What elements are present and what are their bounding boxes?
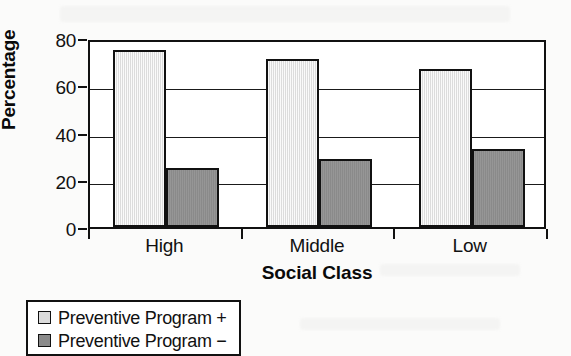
x-tick-mark — [546, 229, 548, 239]
y-tick-mark — [78, 228, 87, 230]
bar-chart: Percentage 020406080 HighMiddleLow Socia… — [0, 0, 571, 356]
y-tick-mark — [78, 39, 87, 41]
bar — [166, 168, 219, 227]
bar — [319, 159, 372, 228]
y-tick-label: 20 — [42, 172, 76, 191]
legend: Preventive Program + Preventive Program … — [26, 300, 241, 356]
x-tick-mark — [393, 229, 395, 239]
bar — [266, 59, 319, 227]
x-tick-label: High — [88, 236, 241, 255]
x-tick-label: Low — [393, 236, 546, 255]
plot-area — [88, 40, 546, 229]
legend-swatch-positive-icon — [38, 311, 51, 324]
y-tick-mark — [78, 86, 87, 88]
y-tick-label: 60 — [42, 78, 76, 97]
legend-item-positive: Preventive Program + — [38, 306, 239, 329]
y-tick-mark — [78, 181, 87, 183]
legend-item-negative: Preventive Program − — [38, 329, 239, 352]
bar — [472, 149, 525, 227]
x-tick-mark — [241, 229, 243, 239]
y-axis-title: Percentage — [0, 30, 20, 130]
y-tick-label: 0 — [42, 220, 76, 239]
legend-label-negative: Preventive Program − — [58, 332, 227, 350]
y-tick-label: 40 — [42, 125, 76, 144]
y-tick-mark — [78, 134, 87, 136]
bar — [419, 69, 472, 227]
bar — [113, 50, 166, 227]
legend-swatch-negative-icon — [38, 334, 51, 347]
x-axis-title: Social Class — [88, 262, 546, 284]
legend-label-positive: Preventive Program + — [58, 309, 227, 327]
y-tick-label: 80 — [42, 31, 76, 50]
x-tick-mark — [88, 229, 90, 239]
x-tick-label: Middle — [241, 236, 394, 255]
